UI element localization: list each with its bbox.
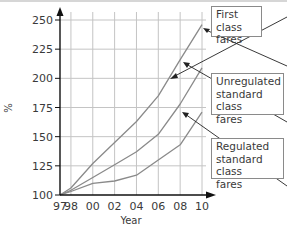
- x-tick-label: 04: [129, 200, 143, 213]
- x-tick-label: 06: [151, 200, 165, 213]
- y-tick-label: 225: [32, 43, 53, 56]
- series-line-3: [60, 112, 202, 195]
- x-tick-label: 02: [108, 200, 122, 213]
- y-tick-label: 150: [32, 131, 53, 144]
- y-tick-label: 250: [32, 14, 53, 27]
- first-class-label-line-2: fares: [216, 33, 258, 46]
- regulated-label-line-1: Regulated: [216, 140, 280, 153]
- x-axis-arrow-icon: [206, 192, 216, 199]
- regulated-label: Regulated standard class fares: [211, 138, 284, 179]
- series-lines: [60, 25, 202, 195]
- y-axis-title: %: [3, 103, 14, 113]
- x-tick-label: 00: [86, 200, 100, 213]
- regulated-label-line-2: standard class: [216, 153, 280, 178]
- y-tick-label: 200: [32, 72, 53, 85]
- y-tick-label: 100: [32, 189, 53, 202]
- x-tick-label: 10: [195, 200, 209, 213]
- tick-labels: 1001251501752002252509798000204060810: [32, 14, 209, 213]
- y-tick-label: 125: [32, 160, 53, 173]
- unregulated-label-line-2: standard class: [216, 88, 280, 113]
- x-axis-title: Year: [119, 215, 142, 226]
- series-line-1: [60, 25, 202, 195]
- first-class-arrowhead-icon: [203, 28, 210, 33]
- grid-lines: [60, 12, 206, 195]
- y-axis-arrow-icon: [57, 7, 64, 16]
- regulated-label-line-3: fares: [216, 178, 280, 191]
- x-tick-label: 98: [64, 200, 78, 213]
- first-class-label-line-1: First class: [216, 8, 258, 33]
- unregulated-label-line-1: Unregulated: [216, 75, 280, 88]
- y-tick-label: 175: [32, 102, 53, 115]
- x-tick-label: 08: [173, 200, 187, 213]
- unregulated-arrowhead-icon: [183, 62, 190, 68]
- unregulated-label: Unregulated standard class fares: [211, 73, 284, 115]
- first-class-label: First class fares: [211, 6, 262, 37]
- regulated-arrowhead-icon: [182, 112, 189, 118]
- unregulated-label-line-3: fares: [216, 113, 280, 126]
